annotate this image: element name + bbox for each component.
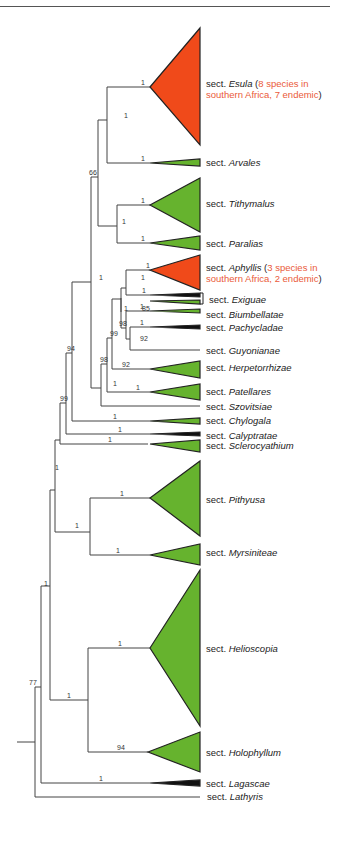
- label-chylogala: sect. Chylogala: [206, 415, 271, 426]
- clade-triangles: [148, 28, 200, 786]
- svg-text:1: 1: [136, 384, 140, 391]
- clade-pithyusa: [150, 461, 200, 536]
- label-paralias: sect. Paralias: [206, 238, 263, 249]
- label-herpetorrhizae: sect. Herpetorrhizae: [206, 362, 292, 373]
- clade-exiguae-b: [150, 300, 200, 304]
- svg-text:1: 1: [140, 303, 144, 310]
- svg-text:1: 1: [44, 580, 48, 587]
- label-patellares: sect. Patellares: [206, 386, 271, 397]
- clade-paralias: [150, 236, 200, 250]
- label-holophyllum: sect. Holophyllum: [206, 747, 281, 758]
- svg-text:1: 1: [108, 436, 112, 443]
- phylogenetic-tree: 1 1 1 66 1 1 1 1 1 1 85 1 1 1 92 98 99 9…: [0, 0, 349, 841]
- label-lathyris: sect. Lathyris: [207, 791, 263, 802]
- svg-text:1: 1: [75, 522, 79, 529]
- label-pachycladae: sect. Pachycladae: [206, 322, 283, 333]
- label-esula: sect. Esula (8 species insouthern Africa…: [206, 78, 322, 100]
- svg-text:1: 1: [141, 79, 145, 86]
- label-lagascae: sect. Lagascae: [206, 778, 270, 789]
- support-values: 1 1 1 66 1 1 1 1 1 1 85 1 1 1 92 98 99 9…: [29, 79, 150, 782]
- label-myrsiniteae: sect. Myrsiniteae: [206, 547, 277, 558]
- clade-sclerocyathium: [150, 440, 200, 452]
- label-arvales: sect. Arvales: [206, 157, 260, 168]
- clade-chylogala: [150, 418, 200, 424]
- clade-biumbellatae: [150, 309, 200, 313]
- label-sclerocyathium: sect. Sclerocyathium: [206, 440, 294, 451]
- svg-text:1: 1: [141, 155, 145, 162]
- svg-text:1: 1: [99, 775, 103, 782]
- svg-text:1: 1: [99, 274, 103, 281]
- clade-patellares: [150, 384, 200, 400]
- label-biumbellatae: sect. Biumbellatae: [206, 309, 284, 320]
- label-pithyusa: sect. Pithyusa: [206, 494, 265, 505]
- svg-text:1: 1: [142, 287, 146, 294]
- clade-pachycladae: [150, 325, 200, 329]
- svg-text:1: 1: [141, 197, 145, 204]
- svg-text:1: 1: [122, 218, 126, 225]
- svg-text:1: 1: [140, 319, 144, 326]
- clade-exiguae-a: [150, 293, 200, 297]
- svg-text:1: 1: [141, 274, 145, 281]
- svg-text:98: 98: [100, 356, 108, 363]
- clade-calyptratae: [150, 432, 200, 436]
- label-szovitsiae: sect. Szovitsiae: [206, 401, 272, 412]
- svg-text:92: 92: [122, 361, 130, 368]
- clade-esula: [150, 28, 200, 145]
- svg-text:1: 1: [118, 426, 122, 433]
- svg-text:1: 1: [116, 547, 120, 554]
- svg-text:1: 1: [124, 305, 128, 312]
- svg-text:1: 1: [118, 640, 122, 647]
- clade-holophyllum: [148, 732, 200, 772]
- label-tithymalus: sect. Tithymalus: [206, 198, 275, 209]
- svg-text:98: 98: [119, 320, 127, 327]
- svg-text:94: 94: [117, 744, 125, 751]
- svg-text:94: 94: [67, 345, 75, 352]
- svg-text:66: 66: [89, 169, 97, 176]
- label-helioscopia: sect. Helioscopia: [206, 643, 278, 654]
- svg-text:99: 99: [60, 395, 68, 402]
- svg-text:1: 1: [113, 380, 117, 387]
- clade-tithymalus: [150, 178, 200, 232]
- clade-herpetorrhizae: [150, 361, 200, 378]
- clade-arvales: [150, 159, 200, 166]
- clade-helioscopia: [150, 570, 200, 726]
- svg-text:1: 1: [55, 464, 59, 471]
- svg-text:77: 77: [29, 679, 37, 686]
- svg-text:1: 1: [67, 692, 71, 699]
- svg-text:1: 1: [146, 262, 150, 269]
- clade-myrsiniteae: [150, 544, 200, 565]
- svg-text:1: 1: [113, 413, 117, 420]
- svg-text:1: 1: [120, 490, 124, 497]
- label-guyonianae: sect. Guyonianae: [206, 345, 280, 356]
- svg-text:92: 92: [140, 335, 148, 342]
- label-exiguae: sect. Exiguae: [209, 294, 266, 305]
- label-aphyllis: sect. Aphyllis (3 species insouthern Afr…: [206, 262, 322, 284]
- svg-text:1: 1: [141, 235, 145, 242]
- clade-lagascae: [150, 780, 200, 786]
- svg-text:99: 99: [110, 330, 118, 337]
- svg-text:1: 1: [124, 112, 128, 119]
- clade-aphyllis: [150, 255, 200, 290]
